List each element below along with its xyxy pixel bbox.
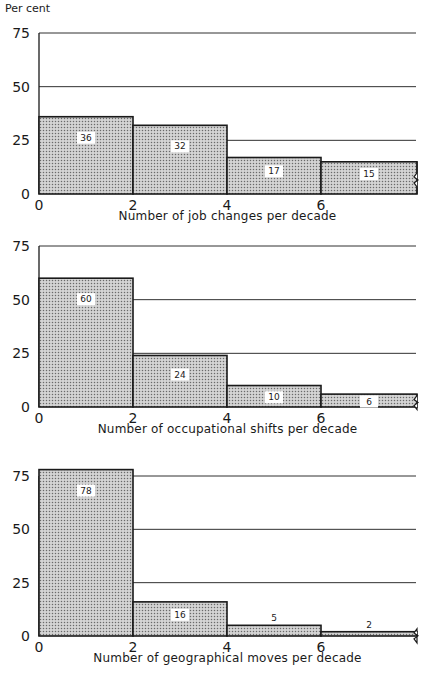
value-label: 60 [80, 294, 92, 304]
bar-2-4 [133, 355, 227, 407]
value-label: 24 [174, 370, 186, 380]
charts-canvas: 0255075363217150246025507560241060246025… [0, 0, 427, 674]
histogram-1: 0255075363217150246 [12, 25, 418, 213]
y-tick-label: 25 [12, 345, 30, 361]
y-tick-label: 50 [12, 292, 30, 308]
x-axis-label: Number of job changes per decade [0, 209, 427, 223]
y-tick-label: 75 [12, 238, 30, 254]
histogram-3: 02550757816520246 [12, 468, 418, 655]
value-label: 5 [271, 613, 277, 623]
value-label: 78 [80, 486, 92, 496]
y-tick-label: 0 [21, 186, 30, 202]
x-axis-label: Number of occupational shifts per decade [0, 422, 427, 436]
value-label: 10 [268, 392, 280, 402]
value-label: 15 [363, 169, 374, 179]
y-tick-label: 0 [21, 628, 30, 644]
y-tick-label: 25 [12, 132, 30, 148]
bar-4-6 [227, 625, 321, 636]
y-tick-label: 50 [12, 79, 30, 95]
y-tick-label: 50 [12, 521, 30, 537]
bar-6+ [321, 632, 417, 636]
bar-2-4 [133, 125, 227, 194]
bar-0-2 [39, 117, 133, 194]
x-axis-label: Number of geographical moves per decade [0, 651, 427, 665]
value-label: 32 [174, 141, 185, 151]
y-tick-label: 0 [21, 399, 30, 415]
value-label: 17 [268, 166, 279, 176]
y-tick-label: 75 [12, 25, 30, 41]
value-label: 6 [366, 397, 372, 407]
y-tick-label: 25 [12, 575, 30, 591]
value-label: 16 [174, 610, 186, 620]
value-label: 36 [80, 133, 92, 143]
value-label: 2 [366, 620, 372, 630]
histogram-2: 025507560241060246 [12, 238, 418, 426]
y-tick-label: 75 [12, 468, 30, 484]
